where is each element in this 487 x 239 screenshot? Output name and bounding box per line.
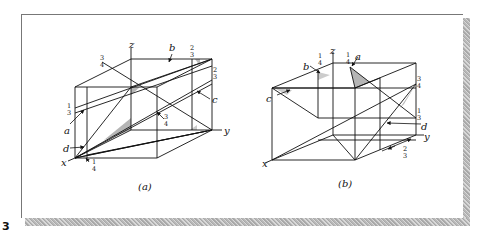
axis-x-label: x	[262, 158, 268, 169]
axis-y-label: y	[423, 131, 430, 142]
cube-a	[68, 48, 222, 161]
plane-label-d: d	[421, 121, 427, 132]
figure-diagrams: z y x a b c d 3 4 2 3 2 3 1 3 3 4 1 4 (a…	[0, 0, 487, 239]
fraction-den: 4	[346, 58, 350, 66]
fraction-den: 3	[403, 152, 407, 160]
fraction-den: 4	[100, 61, 104, 69]
fraction-den: 3	[190, 51, 194, 59]
fraction-den: 4	[318, 59, 322, 67]
arrows-a	[70, 54, 210, 162]
caption-a: (a)	[138, 181, 152, 192]
plane-label-c: c	[212, 94, 218, 105]
fraction-den: 4	[164, 120, 168, 128]
axis-z-label: z	[329, 45, 336, 56]
labels-b: z y x a b c d 1 4 1 4 3 4 1 3 2 3 (b)	[262, 45, 430, 189]
cube-b	[265, 52, 424, 163]
fraction-den: 4	[417, 82, 421, 90]
shaded-region-b1	[350, 67, 370, 88]
plane-label-d: d	[63, 143, 69, 154]
caption-b: (b)	[338, 178, 352, 189]
axis-z-label: z	[128, 39, 135, 50]
axis-y-label: y	[223, 125, 230, 136]
shaded-region-a4	[190, 125, 197, 130]
plane-label-a: a	[64, 125, 70, 136]
fraction-den: 3	[67, 109, 71, 117]
axis-x-label: x	[61, 157, 67, 168]
plane-label-b: b	[303, 61, 309, 72]
plane-label-c: c	[266, 93, 272, 104]
fraction-den: 3	[417, 114, 421, 122]
plane-label-a: a	[355, 51, 361, 62]
fraction-den: 4	[92, 165, 96, 173]
fraction-den: 3	[213, 73, 217, 81]
plane-label-b: b	[169, 42, 175, 53]
